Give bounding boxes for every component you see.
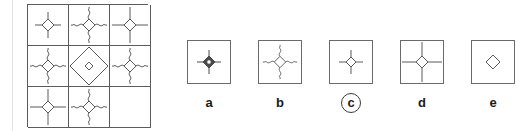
matrix-cell-r3c3-missing[interactable] bbox=[110, 87, 151, 128]
option-c-label-selected[interactable]: c bbox=[341, 93, 361, 113]
option-c-box[interactable] bbox=[329, 40, 373, 84]
option-b-label[interactable]: b bbox=[270, 93, 290, 113]
matrix-cell-r1c1[interactable] bbox=[28, 5, 69, 46]
option-b[interactable]: b bbox=[257, 40, 303, 113]
large-diamond-with-inner-diamond-icon bbox=[69, 46, 109, 86]
filled-diamond-short-spokes-icon bbox=[192, 45, 226, 79]
option-b-box[interactable] bbox=[258, 40, 302, 84]
matrix-cell-r2c2[interactable] bbox=[69, 46, 110, 87]
diamond-wavy-spokes-icon bbox=[28, 46, 68, 86]
option-d-box[interactable] bbox=[400, 40, 444, 84]
matrix-cell-r2c3[interactable] bbox=[110, 46, 151, 87]
diamond-wavy-spokes-icon bbox=[261, 43, 299, 81]
matrix-cell-r1c3[interactable] bbox=[110, 5, 151, 46]
option-d[interactable]: d bbox=[399, 40, 445, 113]
diamond-long-straight-spokes-icon bbox=[28, 87, 68, 127]
diamond-short-straight-spokes-icon bbox=[334, 45, 368, 79]
plain-diamond-icon bbox=[481, 50, 505, 74]
diamond-wavy-spokes-icon bbox=[69, 5, 109, 45]
diamond-wavy-spokes-icon bbox=[69, 87, 109, 127]
matrix-cell-r3c1[interactable] bbox=[28, 87, 69, 128]
diamond-wavy-spokes-icon bbox=[110, 46, 150, 86]
option-e-box[interactable] bbox=[471, 40, 515, 84]
analogy-matrix-grid bbox=[27, 4, 148, 127]
option-a[interactable]: a bbox=[186, 40, 232, 113]
matrix-cell-r1c2[interactable] bbox=[69, 5, 110, 46]
matrix-cell-r3c2[interactable] bbox=[69, 87, 110, 128]
option-c[interactable]: c bbox=[328, 40, 374, 113]
option-e[interactable]: e bbox=[470, 40, 516, 113]
diamond-straight-spokes-icon bbox=[29, 6, 67, 44]
matrix-cell-r2c1[interactable] bbox=[28, 46, 69, 87]
page-margin-rule bbox=[12, 0, 13, 131]
diamond-long-straight-spokes-icon bbox=[401, 41, 443, 83]
diamond-long-straight-spokes-icon bbox=[110, 5, 150, 45]
option-a-box[interactable] bbox=[187, 40, 231, 84]
option-d-label[interactable]: d bbox=[412, 93, 432, 113]
option-e-label[interactable]: e bbox=[483, 93, 503, 113]
option-a-label[interactable]: a bbox=[199, 93, 219, 113]
answer-options-row: a b c bbox=[186, 40, 516, 128]
